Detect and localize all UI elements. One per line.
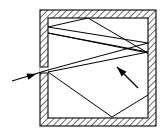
cavity-ray-diagram	[0, 0, 164, 134]
cavity-walls	[0, 0, 164, 134]
figure-container	[0, 0, 164, 134]
